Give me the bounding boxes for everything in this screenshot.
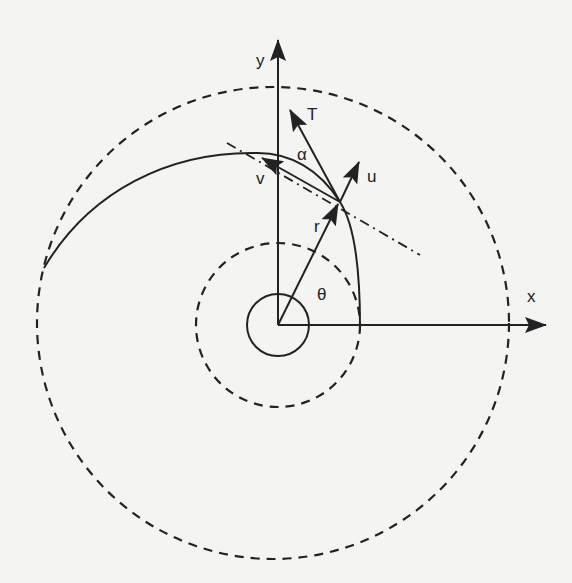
unit-vector-u [340, 162, 359, 202]
diagram-canvas: y x T α v u r θ [0, 0, 572, 583]
radius-vector [278, 204, 338, 325]
x-axis-label: x [527, 288, 536, 305]
diagram-svg [0, 0, 572, 583]
outer-orbit [37, 87, 509, 559]
unit-vector-label: u [367, 168, 376, 185]
theta-label: θ [317, 286, 326, 303]
y-axis-label: y [256, 52, 265, 69]
thrust-label: T [307, 106, 317, 123]
velocity-label: v [256, 170, 265, 187]
transfer-spiral [44, 153, 360, 325]
tangent-line [227, 143, 420, 255]
alpha-label: α [297, 146, 307, 163]
radius-label: r [314, 218, 320, 235]
